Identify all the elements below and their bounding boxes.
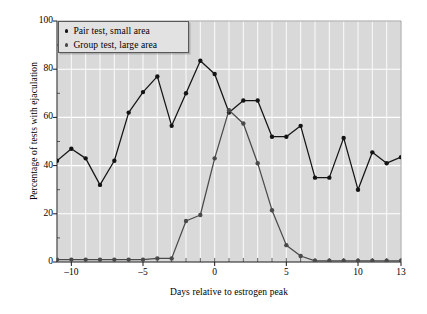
x-tick-label: 13 xyxy=(386,268,416,278)
y-axis-title: Percentage of tests with ejaculation xyxy=(26,0,42,262)
chart-legend: Pair test, small area Group test, large … xyxy=(58,21,189,53)
x-tick-label: 0 xyxy=(200,268,230,278)
x-tick-label: –10 xyxy=(56,268,86,278)
legend-item-label: Group test, large area xyxy=(73,40,157,50)
x-tick-label: 10 xyxy=(343,268,373,278)
legend-item-label: Pair test, small area xyxy=(73,26,150,36)
legend-marker-icon xyxy=(65,43,68,46)
x-tick-label: 5 xyxy=(271,268,301,278)
chart-figure: 020406080100 –10–5051013 Percentage of t… xyxy=(0,0,427,314)
x-tick-label: –5 xyxy=(128,268,158,278)
legend-marker-icon xyxy=(65,29,68,32)
legend-item-pair-test: Pair test, small area xyxy=(65,24,150,38)
x-axis-title: Days relative to estrogen peak xyxy=(57,287,401,297)
legend-item-group-test: Group test, large area xyxy=(65,38,157,52)
